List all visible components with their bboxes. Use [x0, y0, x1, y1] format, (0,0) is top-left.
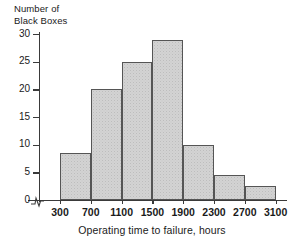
x-tick-label: 1100: [110, 206, 133, 218]
y-tick-label: 15: [8, 111, 30, 122]
y-tick-label: 10: [8, 138, 30, 149]
x-tick-mark: [245, 200, 246, 204]
x-tick-label: 1500: [141, 206, 164, 218]
histogram-bar: [122, 62, 153, 200]
histogram-bar: [152, 40, 183, 200]
x-tick-mark: [214, 200, 215, 204]
histogram-bar: [60, 153, 91, 200]
x-tick-mark: [122, 200, 123, 204]
y-tick-mark: [33, 62, 40, 63]
x-tick-mark: [60, 200, 61, 204]
x-tick-label: 3100: [264, 206, 287, 218]
x-tick-mark: [183, 200, 184, 204]
y-axis-title: Number of Black Boxes: [14, 3, 67, 26]
y-tick-label: 5: [8, 166, 30, 177]
x-tick-label: 300: [51, 206, 69, 218]
x-tick-label: 2300: [202, 206, 225, 218]
histogram-bar: [214, 175, 245, 200]
histogram-figure: Number of Black Boxes 30 25 20 15 10 5: [0, 0, 304, 242]
y-tick-mark: [33, 145, 40, 146]
x-tick-label: 700: [82, 206, 100, 218]
x-tick-mark: [276, 200, 277, 204]
x-axis-line: [28, 200, 287, 201]
x-tick-label: 2700: [233, 206, 256, 218]
axis-break-icon: [30, 192, 46, 208]
x-tick-label: 1900: [172, 206, 195, 218]
x-axis-title: Operating time to failure, hours: [0, 224, 304, 236]
y-tick-label: 0: [8, 194, 30, 205]
y-tick-label: 20: [8, 83, 30, 94]
y-tick-mark: [33, 172, 40, 173]
y-tick-mark: [33, 89, 40, 90]
x-tick-mark: [152, 200, 153, 204]
y-tick-mark: [33, 34, 40, 35]
plot-area: 30 25 20 15 10 5 0: [39, 34, 287, 200]
y-tick-label: 30: [8, 28, 30, 39]
histogram-bar: [91, 89, 122, 200]
y-tick-label: 25: [8, 55, 30, 66]
histogram-bar: [245, 186, 276, 200]
y-tick-mark: [33, 117, 40, 118]
histogram-bar: [183, 145, 214, 200]
x-tick-mark: [91, 200, 92, 204]
